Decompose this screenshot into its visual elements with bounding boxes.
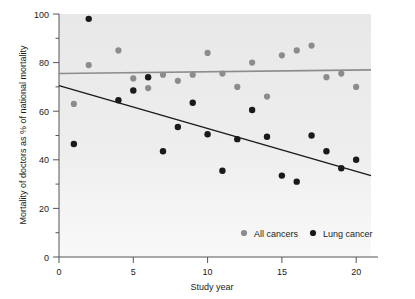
x-tick-label-20: 20 <box>351 267 361 277</box>
data-point <box>353 84 359 90</box>
y-tick-label-40: 40 <box>39 155 49 165</box>
data-point <box>249 107 255 113</box>
x-tick-label-10: 10 <box>203 267 213 277</box>
data-point <box>234 84 240 90</box>
data-point <box>115 47 121 53</box>
data-point <box>86 16 92 22</box>
data-point <box>204 131 210 137</box>
x-axis-title: Study year <box>190 282 233 292</box>
data-point <box>294 47 300 53</box>
data-point <box>338 165 344 171</box>
x-tick-label-15: 15 <box>277 267 287 277</box>
legend-marker-lung-cancer <box>310 230 316 236</box>
data-point <box>175 124 181 130</box>
data-point <box>219 70 225 76</box>
data-point <box>130 75 136 81</box>
y-axis-ticks: 0 20 40 60 80 100 <box>34 10 59 263</box>
data-point <box>249 60 255 66</box>
y-axis-title: Mortality of doctors as % of national mo… <box>18 45 28 225</box>
data-point <box>353 157 359 163</box>
x-tick-label-5: 5 <box>131 267 136 277</box>
data-point <box>190 72 196 78</box>
data-point <box>145 74 151 80</box>
y-tick-label-20: 20 <box>39 204 49 214</box>
y-tick-label-60: 60 <box>39 107 49 117</box>
data-point <box>71 141 77 147</box>
data-point <box>264 94 270 100</box>
data-point <box>219 168 225 174</box>
data-point <box>160 148 166 154</box>
data-point <box>175 78 181 84</box>
data-point <box>264 134 270 140</box>
data-point <box>204 50 210 56</box>
data-point <box>323 74 329 80</box>
legend-label-all-cancers: All cancers <box>254 229 299 239</box>
data-point <box>279 172 285 178</box>
data-point <box>308 42 314 48</box>
chart-figure: 0 20 40 60 80 100 0 5 <box>0 0 415 299</box>
legend-marker-all-cancers <box>241 230 247 236</box>
data-point <box>86 62 92 68</box>
plot-area-fade <box>59 14 371 257</box>
x-axis-ticks: 0 5 10 15 20 <box>56 257 361 277</box>
y-tick-label-80: 80 <box>39 58 49 68</box>
y-tick-label-0: 0 <box>44 253 49 263</box>
data-point <box>294 178 300 184</box>
y-tick-label-100: 100 <box>34 10 49 20</box>
data-point <box>145 85 151 91</box>
data-point <box>323 148 329 154</box>
data-point <box>160 72 166 78</box>
legend-label-lung-cancer: Lung cancer <box>323 229 373 239</box>
data-point <box>308 132 314 138</box>
data-point <box>338 70 344 76</box>
scatter-plot-svg: 0 20 40 60 80 100 0 5 <box>0 0 415 299</box>
data-point <box>115 97 121 103</box>
x-tick-label-0: 0 <box>56 267 61 277</box>
data-point <box>130 87 136 93</box>
data-point <box>71 101 77 107</box>
data-point <box>234 136 240 142</box>
data-point <box>279 52 285 58</box>
y-axis-minor-ticks <box>56 38 60 232</box>
data-point <box>190 99 196 105</box>
